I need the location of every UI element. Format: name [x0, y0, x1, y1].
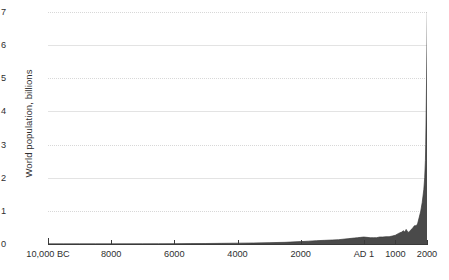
y-tick-label: 7: [1, 7, 6, 17]
x-tick-mark: [301, 240, 302, 245]
x-tick-label: 1000: [385, 249, 405, 259]
x-tick-mark: [238, 240, 239, 245]
y-tick-label: 6: [1, 40, 6, 50]
y-tick-label: 5: [1, 73, 6, 83]
y-tick-label: 3: [1, 140, 6, 150]
x-tick-mark: [48, 240, 49, 245]
x-tick-label: 2000: [290, 249, 310, 259]
x-tick-mark: [174, 240, 175, 245]
x-tick-mark: [395, 240, 396, 245]
y-tick-label: 4: [1, 106, 6, 116]
x-tick-mark: [427, 240, 428, 245]
population-area-series: [48, 12, 427, 244]
x-tick-label: 8000: [101, 249, 121, 259]
x-tick-mark: [111, 240, 112, 245]
x-tick-label: 4000: [227, 249, 247, 259]
y-tick-label: 1: [1, 206, 6, 216]
y-tick-label: 2: [1, 173, 6, 183]
x-tick-label: 10,000 BC: [26, 249, 69, 259]
x-tick-label: AD 1: [354, 249, 374, 259]
x-tick-label: 6000: [164, 249, 184, 259]
y-axis-title: World population, billions: [23, 44, 34, 204]
x-tick-mark: [364, 240, 365, 245]
x-tick-label: 2000: [417, 249, 437, 259]
world-population-chart: World population, billions 10,000 BC8000…: [0, 0, 449, 280]
y-tick-label: 0: [1, 239, 6, 249]
plot-area: [48, 12, 427, 244]
